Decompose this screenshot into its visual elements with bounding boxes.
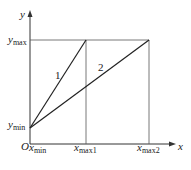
origin-label: O bbox=[21, 140, 29, 152]
line-1 bbox=[30, 40, 86, 128]
y-axis-label: y bbox=[19, 8, 25, 20]
line-2 bbox=[30, 40, 149, 128]
x-max1-label: xmax1 bbox=[73, 141, 97, 155]
y-min-label: ymin bbox=[7, 118, 25, 132]
x-axis-label: x bbox=[177, 140, 183, 152]
y-max-label: ymax bbox=[7, 33, 27, 47]
x-axis-arrow-icon bbox=[169, 142, 176, 147]
line-1-label: 1 bbox=[55, 69, 61, 81]
line-2-label: 2 bbox=[98, 61, 104, 73]
diagram-canvas: y x ymax ymin O xmin xmax1 xmax2 1 2 bbox=[0, 0, 191, 170]
y-axis-arrow-icon bbox=[28, 10, 33, 17]
x-max2-label: xmax2 bbox=[136, 141, 160, 155]
x-min-label: xmin bbox=[28, 141, 46, 155]
